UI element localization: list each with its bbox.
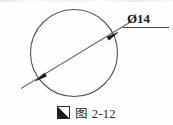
circle-shape [31,10,118,97]
diameter-dimension-line [21,21,132,89]
half-filled-square-icon [57,106,70,119]
caption-label: 图 2-12 [75,103,116,122]
diameter-label: Ø14 [127,11,150,27]
figure-caption: 图 2-12 [0,103,173,122]
figure-page: Ø14 图 2-12 [0,0,173,125]
